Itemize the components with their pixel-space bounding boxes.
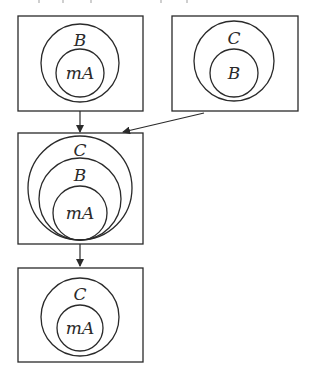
set-label: mA xyxy=(66,318,94,338)
node-1: B mA xyxy=(18,16,143,111)
node-4: C mA xyxy=(18,268,143,362)
top-edge-fragments xyxy=(38,0,188,3)
node-2: C B xyxy=(172,16,298,111)
set-diagram: B mA C B C B mA C mA xyxy=(0,0,309,372)
set-label: C xyxy=(73,284,86,304)
set-label: C xyxy=(227,28,240,48)
set-label: mA xyxy=(66,203,94,223)
set-label: mA xyxy=(66,63,94,83)
set-label: B xyxy=(227,63,241,83)
set-label: B xyxy=(73,30,87,50)
arrow-n2-to-n3 xyxy=(123,113,204,132)
set-label: C xyxy=(73,140,86,160)
node-4-frame xyxy=(18,268,143,362)
node-3: C B mA xyxy=(18,133,143,244)
set-label: B xyxy=(73,165,87,185)
